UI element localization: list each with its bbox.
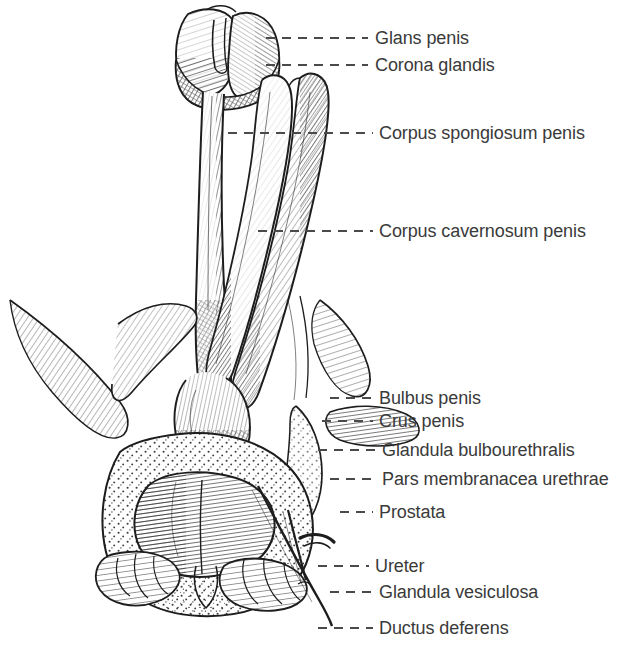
label-glans-penis: Glans penis xyxy=(375,29,469,47)
anatomical-plate: Glans penis Corona glandis Corpus spongi… xyxy=(0,0,641,651)
leader-lines xyxy=(0,0,641,651)
label-corona-glandis: Corona glandis xyxy=(375,56,495,74)
label-prostata: Prostata xyxy=(379,503,445,521)
label-crus-penis: Crus penis xyxy=(379,412,464,430)
label-corpus-spongiosum-penis: Corpus spongiosum penis xyxy=(379,124,585,142)
label-corpus-cavernosum-penis: Corpus cavernosum penis xyxy=(379,222,586,240)
label-bulbus-penis: Bulbus penis xyxy=(379,389,481,407)
label-ductus-deferens: Ductus deferens xyxy=(379,619,509,637)
label-glandula-bulbourethralis: Glandula bulbourethralis xyxy=(382,441,575,459)
label-ureter: Ureter xyxy=(375,557,424,575)
label-glandula-vesiculosa: Glandula vesiculosa xyxy=(379,583,538,601)
label-pars-membranacea-urethrae: Pars membranacea urethrae xyxy=(382,470,609,488)
